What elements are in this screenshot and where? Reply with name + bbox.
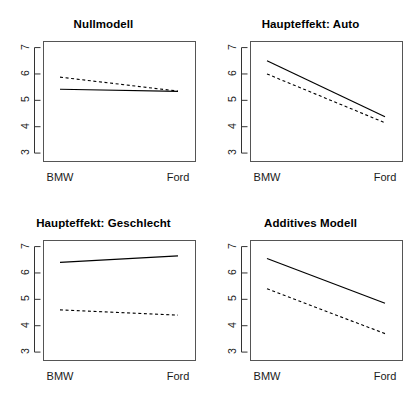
data-line-solid <box>60 256 178 263</box>
plot-area <box>207 0 414 198</box>
x-axis-category-label: BMW <box>47 370 74 382</box>
chart-panel-bottom-right: Additives Modell34567BMWFord <box>207 199 414 397</box>
x-axis-category-label: Ford <box>374 171 397 183</box>
data-line-solid <box>60 89 178 91</box>
plot-box-frame <box>251 241 403 361</box>
x-axis-category-label: BMW <box>254 370 281 382</box>
chart-panel-top-right: Haupteffekt: Auto34567BMWFord <box>207 0 414 198</box>
plot-box-frame <box>251 42 403 162</box>
data-line-solid <box>267 258 385 303</box>
plot-area <box>0 0 207 198</box>
data-line-dashed <box>267 74 385 123</box>
x-axis-category-label: Ford <box>167 370 190 382</box>
figure-canvas: Nullmodell34567BMWFordHaupteffekt: Auto3… <box>0 0 414 397</box>
chart-panel-bottom-left: Haupteffekt: Geschlecht34567BMWFord <box>0 199 207 397</box>
data-line-dashed <box>60 310 178 315</box>
x-axis-category-label: BMW <box>47 171 74 183</box>
x-axis-category-label: Ford <box>167 171 190 183</box>
x-axis-category-label: Ford <box>374 370 397 382</box>
plot-box-frame <box>44 42 196 162</box>
data-line-dashed <box>267 289 385 334</box>
plot-area <box>207 199 414 397</box>
x-axis-category-label: BMW <box>254 171 281 183</box>
chart-panel-top-left: Nullmodell34567BMWFord <box>0 0 207 198</box>
plot-area <box>0 199 207 397</box>
data-line-solid <box>267 61 385 117</box>
